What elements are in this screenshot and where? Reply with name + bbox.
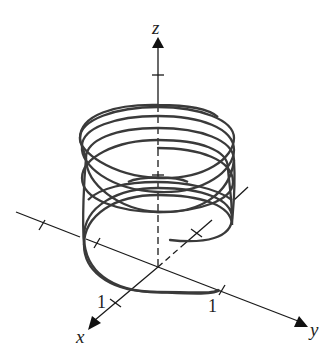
y-tick-label: 1: [208, 297, 217, 315]
y-axis-arrow-icon: [294, 316, 308, 327]
x-tick-label: 1: [97, 293, 106, 311]
x-axis-arrow-icon: [88, 316, 101, 330]
z-axis: [152, 48, 164, 267]
z-axis-label: z: [152, 18, 159, 37]
helix-figure: [0, 0, 328, 350]
y-axis: [16, 212, 298, 321]
helix-loops: [80, 105, 235, 294]
x-axis-label: x: [76, 327, 84, 346]
z-axis-arrow-icon: [152, 37, 164, 48]
y-axis-label: y: [310, 320, 318, 339]
